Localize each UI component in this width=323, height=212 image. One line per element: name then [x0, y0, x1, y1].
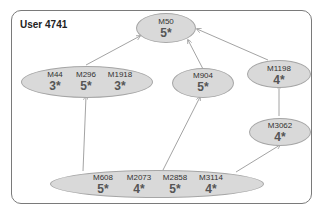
- rating: 4*: [259, 74, 299, 87]
- node-group-m608-m2073-m2858-m3114[interactable]: [50, 170, 264, 198]
- movie-label: M904: [183, 71, 223, 80]
- rating: 5*: [146, 27, 186, 40]
- movie-label: M3114: [194, 173, 228, 182]
- rating: 5*: [71, 80, 101, 93]
- movie-label: M50: [146, 17, 186, 26]
- edge-g2-g1: [83, 96, 86, 171]
- movie-label: M3062: [260, 121, 300, 130]
- rating: 5*: [183, 81, 223, 94]
- rating: 5*: [88, 183, 118, 196]
- edge-g2-m3062: [236, 145, 280, 172]
- rating: 4*: [122, 183, 156, 196]
- movie-label: M2858: [158, 173, 192, 182]
- movie-label: M44: [43, 70, 67, 79]
- movie-label: M1918: [103, 70, 137, 79]
- rating: 5*: [158, 183, 192, 196]
- rating: 3*: [103, 80, 137, 93]
- edge-g2-m904: [163, 97, 200, 170]
- edge-m904-m50: [188, 40, 203, 69]
- movie-label: M2073: [122, 173, 156, 182]
- user-title: User 4741: [20, 19, 67, 30]
- rating: 3*: [43, 80, 67, 93]
- edge-m1198-m50: [197, 29, 268, 60]
- edge-g1-m50: [86, 36, 140, 65]
- movie-label: M1198: [259, 64, 299, 73]
- movie-label: M608: [88, 173, 118, 182]
- movie-label: M296: [71, 70, 101, 79]
- rating: 4*: [260, 131, 300, 144]
- rating: 4*: [194, 183, 228, 196]
